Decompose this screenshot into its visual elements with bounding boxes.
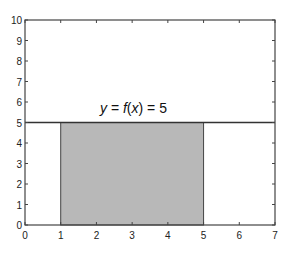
y-tick-label: 4 <box>16 138 22 149</box>
x-tick-label: 5 <box>201 230 207 241</box>
x-tick-label: 2 <box>94 230 100 241</box>
x-tick-label: 0 <box>22 230 28 241</box>
y-tick-label: 8 <box>16 56 22 67</box>
y-tick-label: 3 <box>16 159 22 170</box>
x-tick-label: 6 <box>237 230 243 241</box>
shaded-area <box>61 123 204 226</box>
y-tick-label: 1 <box>16 200 22 211</box>
y-tick-label: 5 <box>16 118 22 129</box>
y-tick-label: 6 <box>16 97 22 108</box>
x-tick-label: 1 <box>58 230 64 241</box>
function-annotation: y = f(x) = 5 <box>99 100 167 116</box>
x-tick-label: 7 <box>272 230 278 241</box>
y-tick-label: 2 <box>16 179 22 190</box>
y-tick-label: 10 <box>11 15 23 26</box>
y-tick-label: 7 <box>16 77 22 88</box>
y-tick-label: 9 <box>16 36 22 47</box>
x-tick-label: 3 <box>129 230 135 241</box>
y-tick-label: 0 <box>16 220 22 231</box>
x-tick-label: 4 <box>165 230 171 241</box>
chart: 01234567012345678910y = f(x) = 5 <box>0 0 291 257</box>
